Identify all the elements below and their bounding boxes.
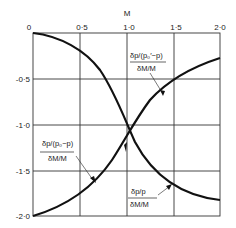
annotation-2-leader — [76, 156, 93, 180]
y-tick-neg-0-5: -0·5 — [16, 75, 31, 84]
annotation-3-numerator: δp/p — [131, 187, 146, 196]
annotation-3-denominator: δM/M — [130, 200, 149, 209]
x-tick-1-0: 1·0 — [123, 23, 135, 32]
annotation-1-arrow-icon — [160, 90, 165, 96]
x-tick-0: 0 — [27, 23, 32, 32]
annotation-1-denominator: δM/M — [137, 64, 156, 73]
y-tick-neg-1-0: -1·0 — [16, 121, 31, 130]
y-tick-neg-1-5: -1·5 — [16, 167, 31, 176]
chart: M 0 0·5 1·0 1·5 2·0 -0·5 -1·0 -1·5 -2·0 … — [0, 0, 236, 228]
x-tick-2-0: 2·0 — [214, 23, 226, 32]
annotation-3-arrow-icon — [166, 184, 172, 190]
curve-dp-over-p — [33, 33, 220, 200]
x-tick-0-5: 0·5 — [76, 23, 88, 32]
y-tick-neg-2-0: -2·0 — [16, 212, 31, 221]
x-axis-title: M — [124, 9, 131, 18]
annotation-2-numerator: δp/(p₀−p) — [42, 139, 74, 148]
x-tick-1-5: 1·5 — [170, 23, 182, 32]
annotation-2-denominator: δM/M — [48, 154, 67, 163]
annotation-1-numerator: δp/(p₀′−p) — [130, 51, 163, 60]
curve-dp-over-p0-minus-p — [33, 58, 220, 216]
